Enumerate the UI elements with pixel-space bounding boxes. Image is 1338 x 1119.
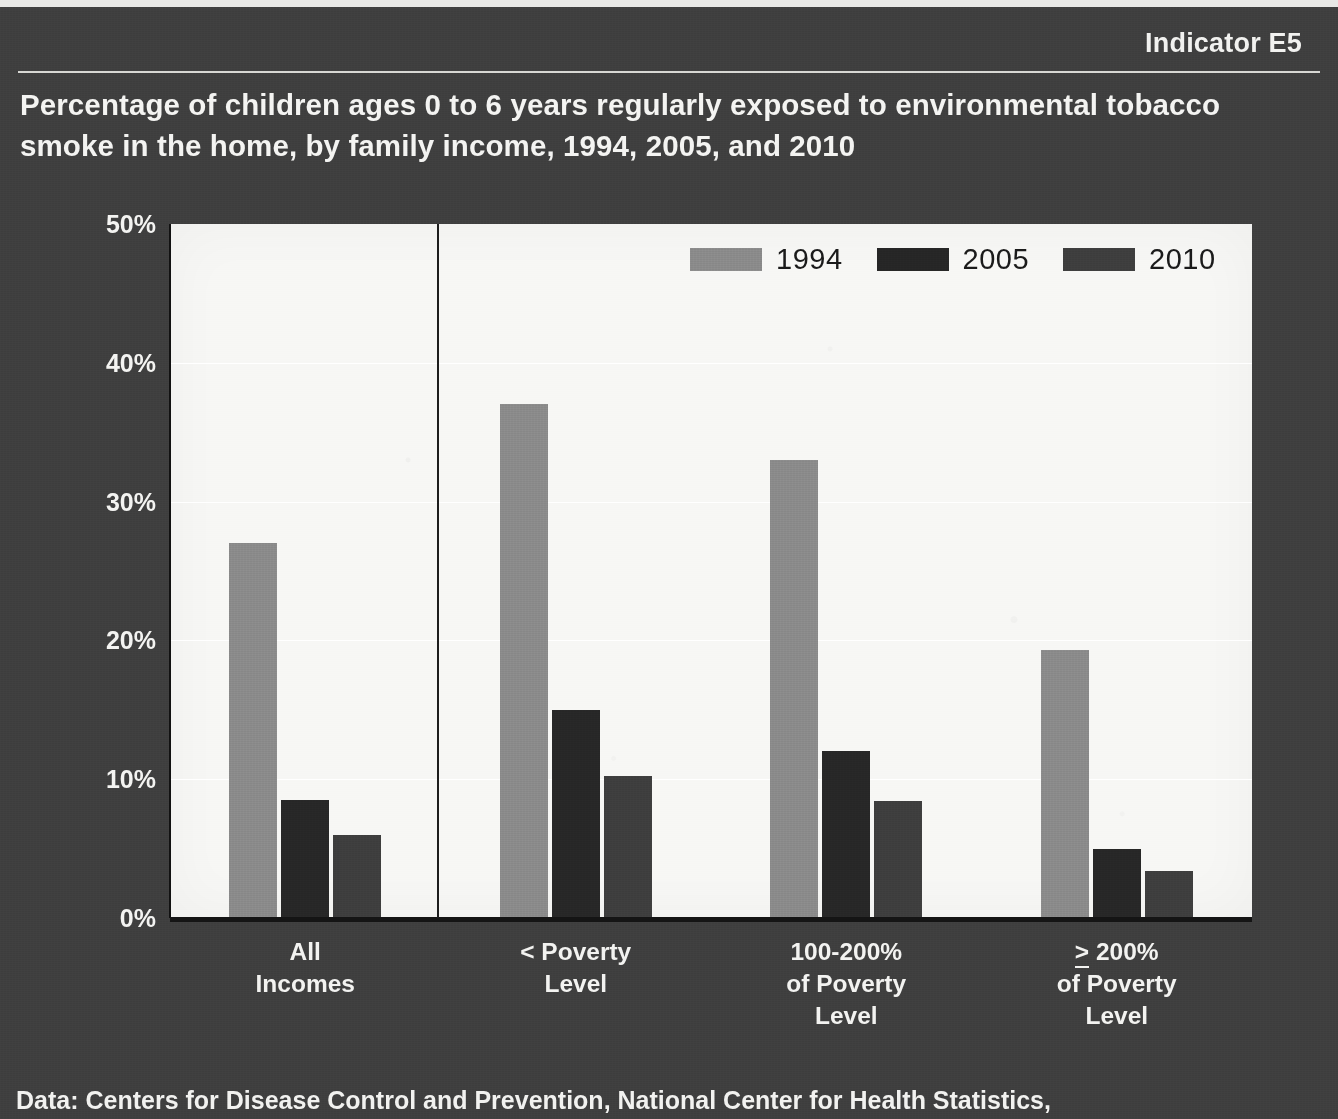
- bar-2005-group-3: [1093, 849, 1141, 918]
- bar-1994-group-0: [229, 543, 277, 918]
- y-tick-50pct: 50%: [16, 210, 156, 239]
- bar-2010-group-2: [874, 801, 922, 918]
- bar-2010-group-0: [333, 835, 381, 918]
- gridline-20: [170, 640, 1252, 641]
- category-group-separator: [437, 224, 439, 918]
- legend-item-2010: 2010: [1063, 243, 1216, 276]
- legend-swatch-2010: [1063, 248, 1135, 271]
- category-label-0: AllIncomes: [155, 936, 455, 1000]
- y-tick-20pct: 20%: [16, 626, 156, 655]
- bar-2010-group-3: [1145, 871, 1193, 918]
- category-label-3: > 200%of PovertyLevel: [967, 936, 1267, 1032]
- bar-2005-group-2: [822, 751, 870, 918]
- gridline-10: [170, 779, 1252, 780]
- gridline-40: [170, 363, 1252, 364]
- bar-chart: 0%10%20%30%40%50% AllIncomes< PovertyLev…: [0, 0, 1338, 1060]
- greater-equal-icon: >: [1075, 938, 1089, 968]
- plot-texture: [170, 224, 1252, 918]
- category-label-2: 100-200%of PovertyLevel: [696, 936, 996, 1032]
- plot-area: [170, 224, 1252, 918]
- chart-legend: 1994 2005 2010: [690, 243, 1216, 276]
- bar-2005-group-0: [281, 800, 329, 918]
- legend-label-2005: 2005: [963, 243, 1030, 276]
- bar-1994-group-3: [1041, 650, 1089, 918]
- legend-label-2010: 2010: [1149, 243, 1216, 276]
- gridline-30: [170, 502, 1252, 503]
- slide-canvas: Indicator E5 Percentage of children ages…: [0, 0, 1338, 1119]
- y-tick-30pct: 30%: [16, 487, 156, 516]
- bar-1994-group-2: [770, 460, 818, 918]
- bar-2005-group-1: [552, 710, 600, 918]
- y-axis-line: [169, 224, 171, 918]
- y-tick-40pct: 40%: [16, 348, 156, 377]
- bar-2010-group-1: [604, 776, 652, 918]
- x-axis-line: [170, 917, 1252, 922]
- legend-swatch-1994: [690, 248, 762, 271]
- legend-label-1994: 1994: [776, 243, 843, 276]
- legend-item-2005: 2005: [877, 243, 1030, 276]
- legend-swatch-2005: [877, 248, 949, 271]
- y-tick-0pct: 0%: [16, 904, 156, 933]
- legend-item-1994: 1994: [690, 243, 843, 276]
- data-source-note: Data: Centers for Disease Control and Pr…: [16, 1086, 1316, 1115]
- category-label-1: < PovertyLevel: [426, 936, 726, 1000]
- bar-1994-group-1: [500, 404, 548, 918]
- y-tick-10pct: 10%: [16, 765, 156, 794]
